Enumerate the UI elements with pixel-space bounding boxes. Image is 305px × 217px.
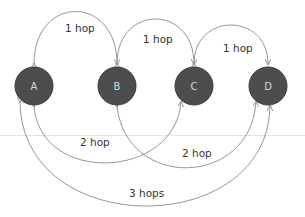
node-d-label: D	[264, 81, 272, 92]
node-b-label: B	[114, 81, 121, 92]
node-c-label: C	[191, 81, 198, 92]
edge-c-d-label: 1 hop	[223, 42, 253, 54]
node-a-label: A	[31, 81, 38, 92]
edge-a-d-label: 3 hops	[129, 187, 164, 199]
hop-diagram: A B C D 1 hop 1 hop 1 hop 2 hop 2 hop 3 …	[0, 0, 305, 217]
node-a: A	[15, 67, 53, 105]
edge-a-b	[34, 12, 117, 65]
node-d: D	[249, 67, 287, 105]
edge-a-b-label: 1 hop	[65, 22, 95, 34]
node-c: C	[175, 67, 213, 105]
edge-a-c-label: 2 hop	[80, 136, 110, 148]
node-b: B	[98, 67, 136, 105]
edge-b-d-label: 2 hop	[182, 147, 212, 159]
edge-a-c	[34, 102, 181, 163]
edge-b-c-label: 1 hop	[143, 33, 173, 45]
